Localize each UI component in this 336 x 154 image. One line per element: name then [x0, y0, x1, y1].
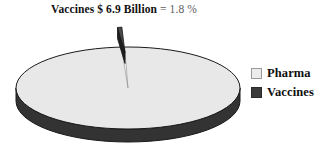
chart-title-value: Vaccines $ 6.9 Billion — [51, 3, 157, 15]
chart-legend: Pharma Vaccines — [251, 64, 336, 102]
pie-graphic — [0, 18, 250, 154]
legend-item-vaccines[interactable]: Vaccines — [251, 83, 336, 101]
legend-label-vaccines: Vaccines — [267, 85, 314, 100]
legend-item-pharma[interactable]: Pharma — [251, 64, 336, 82]
chart-title: Vaccines $ 6.9 Billion = 1.8 % — [0, 2, 248, 16]
pie-chart-figure: Vaccines $ 6.9 Billion = 1.8 % — [0, 0, 336, 154]
legend-label-pharma: Pharma — [267, 66, 311, 81]
legend-swatch-vaccines-icon — [251, 87, 262, 98]
legend-swatch-pharma-icon — [251, 68, 262, 79]
pie-svg — [0, 18, 250, 154]
chart-title-percent: = 1.8 % — [157, 3, 197, 15]
